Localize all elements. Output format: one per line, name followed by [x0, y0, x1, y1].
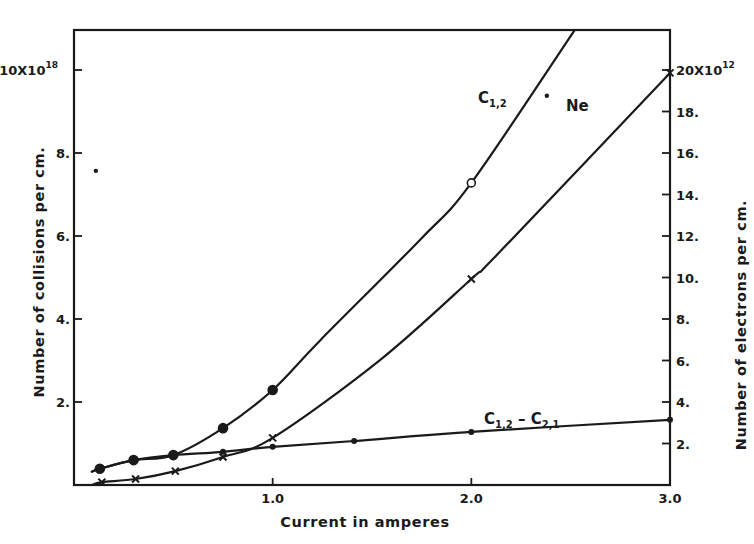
x-tick-label: 2.0 [460, 491, 483, 506]
marker-c1-2-c2-1 [468, 429, 474, 435]
marker-c1-2 [95, 464, 104, 473]
axis-ticks [74, 70, 670, 485]
curve-label-c12: C1,2 [478, 89, 507, 109]
marker-c1-2 [219, 424, 228, 433]
y-left-tick-label: 6. [56, 229, 70, 244]
y-right-tick-label: 10. [676, 271, 699, 286]
y-left-tick-label: 10X1018 [0, 60, 58, 78]
marker-ne [269, 434, 276, 441]
y-right-tick-label: 18. [676, 105, 699, 120]
stray-point [94, 169, 98, 173]
y-left-axis-title: Number of collisions per cm. [31, 147, 47, 398]
y-right-tick-label: 20X1012 [676, 60, 735, 78]
y-left-tick-label: 8. [56, 146, 70, 161]
x-tick-label: 3.0 [658, 491, 681, 506]
marker-c1-2-c2-1 [667, 417, 673, 423]
marker-c1-2-c2-1 [270, 444, 276, 450]
marker-c1-2 [467, 179, 475, 187]
y-right-axis-title: Number of electrons per cm. [733, 200, 749, 450]
y-right-tick-label: 16. [676, 146, 699, 161]
y-right-tick-label: 8. [676, 312, 690, 327]
marker-c1-2 [129, 456, 138, 465]
marker-c1-2-c2-1 [220, 449, 226, 455]
x-tick-label: 1.0 [261, 491, 284, 506]
marker-c1-2 [268, 385, 277, 394]
y-right-tick-label: 6. [676, 354, 690, 369]
y-left-tick-label: 4. [56, 312, 70, 327]
curve-label-ne: Ne [566, 97, 589, 115]
marker-ne [468, 275, 475, 282]
marker-c1-2 [169, 451, 178, 460]
curve-c1-2-c2-1 [92, 420, 670, 472]
y-right-tick-label: 12. [676, 229, 699, 244]
y-right-tick-label: 14. [676, 188, 699, 203]
chart-canvas: 1.02.03.02.4.6.8.10X10182.4.6.8.10.12.14… [0, 0, 754, 544]
x-axis-title: Current in amperes [280, 514, 449, 530]
y-left-tick-label: 2. [56, 395, 70, 410]
curve-label-c12-minus-c21: C1,2 – C2,1 [484, 410, 559, 430]
marker-c1-2-c2-1 [351, 438, 357, 444]
y-right-tick-label: 4. [676, 395, 690, 410]
stray-point [545, 94, 549, 98]
y-right-tick-label: 2. [676, 437, 690, 452]
